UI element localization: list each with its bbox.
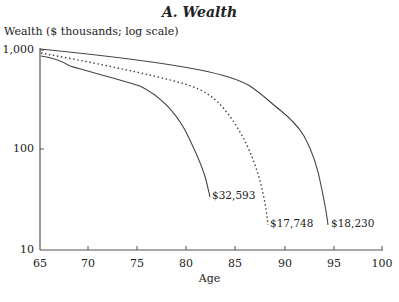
end-label-upper: $18,230 [331,217,374,229]
end-label-lower: $32,593 [212,189,255,201]
series-upper-line [40,49,328,225]
series-lower-line [41,56,210,197]
end-label-middle: $17,748 [270,217,313,229]
plot-area [0,0,399,302]
